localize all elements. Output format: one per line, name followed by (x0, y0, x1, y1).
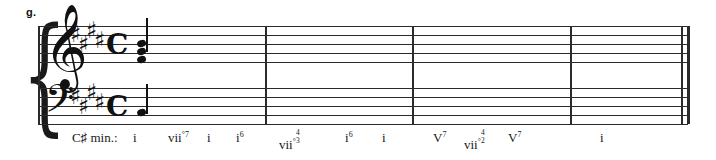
roman-numeral-text: vii (279, 137, 293, 152)
note-stem (146, 18, 148, 52)
sharp-icon: ♯ (94, 91, 105, 114)
treble-staff (38, 26, 688, 62)
figured-bass-stack: 42 (481, 129, 485, 144)
figure-bottom: 3 (296, 137, 300, 145)
figured-bass-superscript: 7 (517, 130, 521, 139)
staff-brace: { (22, 22, 32, 128)
note-stem (146, 84, 148, 114)
figured-bass-superscript: 7 (442, 130, 446, 139)
staff-line (38, 26, 688, 27)
time-signature-treble: C (106, 31, 128, 59)
staff-line (38, 44, 688, 45)
roman-numeral: V7 (508, 130, 521, 146)
staff-line (38, 53, 688, 54)
staff-line (38, 62, 688, 63)
figured-bass-superscript: 6 (349, 130, 353, 139)
music-notation-sheet: g. { 𝄞 𝄢 ♯ ♯ ♯ (0, 0, 716, 160)
roman-numeral-text: i (382, 130, 386, 145)
figured-bass-stack: 43 (296, 129, 300, 144)
roman-numeral: vii°43 (279, 130, 300, 153)
figured-bass-superscript: 7 (185, 130, 189, 139)
roman-numeral: i6 (345, 130, 353, 146)
sharp-icon: ♯ (94, 29, 105, 52)
staff-line (38, 115, 688, 116)
key-label: C♯ min.: (72, 130, 118, 146)
roman-numeral-text: V (433, 130, 442, 145)
final-barline-thick (687, 26, 690, 124)
staff-line (38, 35, 688, 36)
roman-numeral: i (382, 130, 386, 146)
bass-staff (38, 88, 688, 124)
roman-numeral-text: i (207, 130, 211, 145)
roman-numeral: i6 (236, 130, 244, 146)
roman-numeral: V7 (433, 130, 446, 146)
roman-numeral: vii°7 (168, 130, 189, 146)
roman-numeral: vii°42 (464, 130, 485, 153)
barline (412, 26, 414, 124)
staff-line (38, 88, 688, 89)
time-signature-bass: C (106, 93, 128, 121)
final-barline-thin (681, 26, 683, 124)
roman-numeral-analysis: C♯ min.: ivii°7ii6vii°43i6iV7vii°42V7i (0, 130, 716, 156)
staff-line (38, 97, 688, 98)
roman-numeral-text: V (508, 130, 517, 145)
barline (265, 26, 267, 124)
roman-numeral: i (133, 130, 137, 146)
roman-numeral: i (600, 130, 604, 146)
roman-numeral-text: vii (168, 130, 182, 145)
figure-bottom: 2 (481, 137, 485, 145)
roman-numeral-text: i (600, 130, 604, 145)
barline (570, 26, 572, 124)
staff-line (38, 124, 688, 125)
staff-line (38, 106, 688, 107)
roman-numeral-text: i (133, 130, 137, 145)
roman-numeral-text: vii (464, 137, 478, 152)
system-left-barline (38, 26, 40, 124)
figured-bass-superscript: 6 (240, 130, 244, 139)
roman-numeral: i (207, 130, 211, 146)
